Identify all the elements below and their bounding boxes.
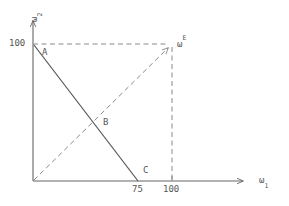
y-axis-name: ω2 [30,13,41,22]
point-label-a: A [42,48,47,57]
x-axis-subscript-1: 1 [264,182,268,190]
x-axis-tick-label-100: 100 [163,185,179,194]
endowment-ray [34,48,168,180]
y-axis-subscript-2: 2 [36,13,44,17]
point-label-endowment: ωE [177,38,186,49]
x-axis-name: ω1 [259,176,268,187]
endowment-superscript-e: E [182,34,186,42]
y-axis-tick-label-100: 100 [9,39,25,48]
figure-root: 100 75 100 A B C ωE ω1 ω2 [0,0,289,206]
x-axis-tick-label-75: 75 [132,185,143,194]
y-axis-omega-glyph: ω [29,17,39,22]
point-label-c: C [143,166,148,175]
budget-line [34,45,138,181]
plot-canvas [0,0,289,206]
point-label-b: B [103,118,108,127]
